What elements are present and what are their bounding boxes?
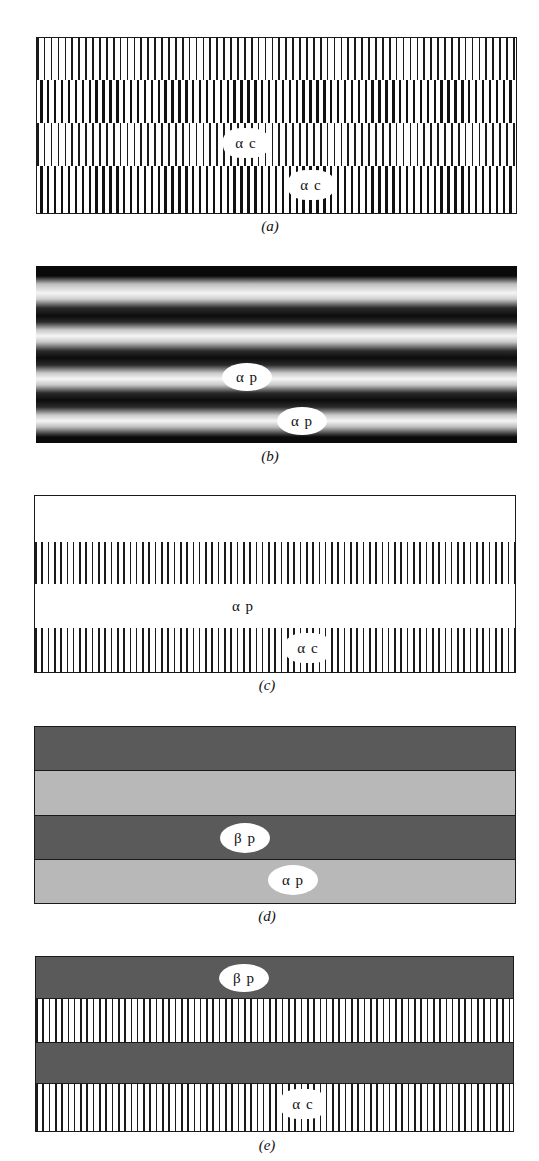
phase-label: α p [222, 363, 272, 391]
caption-d: (d) [237, 908, 297, 925]
panel-e-band-1 [36, 957, 513, 999]
panel-d-band-2 [35, 771, 515, 815]
phase-label: α c [288, 170, 334, 200]
phase-label: β p [220, 823, 270, 853]
panel-a-band-1 [37, 38, 516, 80]
phase-label: α p [221, 593, 265, 619]
panel-e: β p α c [35, 956, 514, 1132]
panel-b: α p α p [36, 266, 517, 443]
panel-d-band-3 [35, 815, 515, 860]
caption-e: (e) [237, 1137, 297, 1154]
panel-e-band-4 [36, 1084, 513, 1132]
phase-label: α c [285, 633, 331, 663]
panel-c-band-1 [35, 496, 515, 542]
phase-label: α p [268, 865, 318, 895]
panel-c-band-3 [35, 584, 515, 628]
caption-b: (b) [240, 448, 300, 465]
panel-a: α c α c [36, 37, 517, 214]
phase-label: α c [223, 128, 269, 158]
panel-a-band-2 [37, 80, 516, 123]
panel-e-band-2 [36, 999, 513, 1042]
panel-a-band-3 [37, 123, 516, 166]
phase-label: β p [219, 964, 269, 992]
caption-a: (a) [240, 218, 300, 235]
phase-label: α c [280, 1089, 326, 1119]
caption-c: (c) [237, 677, 297, 694]
panel-d-band-1 [35, 727, 515, 771]
panel-a-band-4 [37, 166, 516, 214]
panel-c-band-2 [35, 542, 515, 584]
panel-e-band-3 [36, 1042, 513, 1084]
panel-c: α p α c [34, 495, 516, 673]
panel-c-band-4 [35, 628, 515, 673]
panel-d: β p α p [34, 726, 516, 904]
phase-label: α p [277, 407, 327, 435]
